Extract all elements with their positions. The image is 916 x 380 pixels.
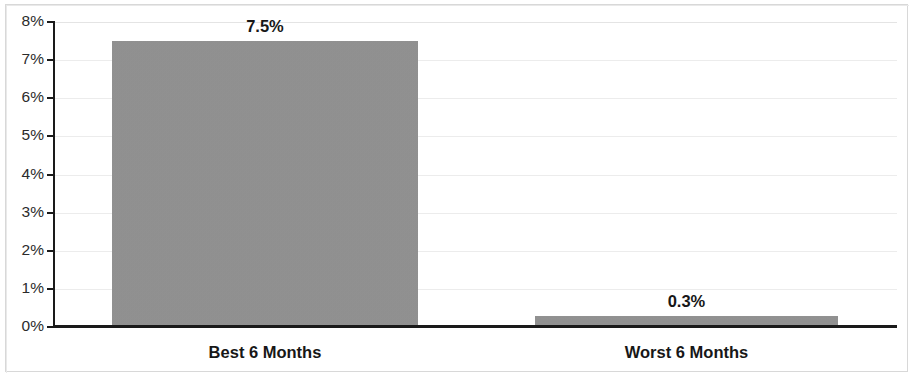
x-axis-category-label: Worst 6 Months — [535, 343, 838, 362]
plot-area — [54, 22, 897, 327]
y-axis-tick — [47, 59, 55, 61]
x-axis-category-label: Best 6 Months — [112, 343, 418, 362]
y-axis-tick-label: 4% — [0, 166, 44, 182]
y-axis-tick-label: 3% — [0, 204, 44, 220]
y-axis-tick-label: 8% — [0, 13, 44, 29]
y-axis-tick — [47, 97, 55, 99]
y-axis-tick — [47, 135, 55, 137]
y-axis-tick-label: 1% — [0, 280, 44, 296]
bar — [112, 41, 418, 327]
y-axis-tick — [47, 21, 55, 23]
y-axis-tick — [47, 288, 55, 290]
y-axis-tick-label: 5% — [0, 127, 44, 143]
y-axis-tick-label: 0% — [0, 318, 44, 334]
y-axis-tick — [47, 212, 55, 214]
y-axis-tick-label: 7% — [0, 51, 44, 67]
y-axis-tick-label: 6% — [0, 89, 44, 105]
y-axis-tick — [47, 250, 55, 252]
y-axis-tick — [47, 174, 55, 176]
x-axis-line — [53, 325, 897, 328]
bar-value-label: 7.5% — [112, 17, 418, 36]
y-axis-tick-label: 2% — [0, 242, 44, 258]
bar-chart: 8%7%6%5%4%3%2%1%0% 7.5%0.3% Best 6 Month… — [0, 0, 916, 380]
bar-value-label: 0.3% — [535, 292, 838, 311]
